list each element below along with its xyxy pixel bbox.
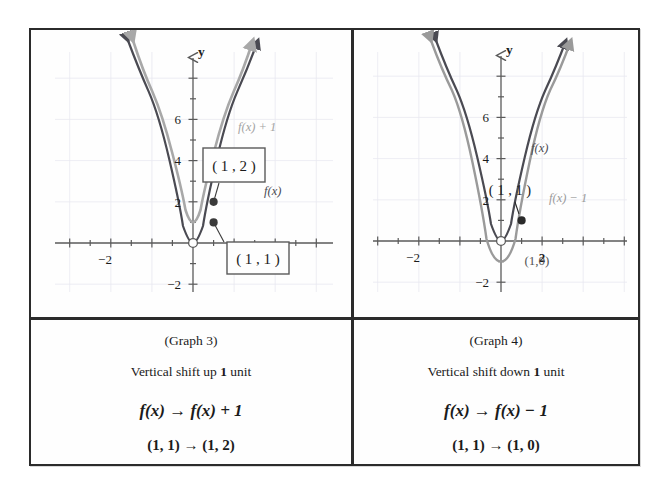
- graph3-point-from: (1, 1): [147, 437, 180, 453]
- graph3-y-axis-label: y: [198, 44, 205, 59]
- graph3-point-arrow: →: [184, 437, 199, 453]
- graph3-description-prefix: Vertical shift up: [131, 364, 221, 379]
- graph3-svg: y −2 2 4 6 −2 f(x) + 1 f(x) ( 1 , 2 ) ( …: [31, 30, 351, 317]
- graph4-plot-cell: y −2 2 2 4 6 −2 f(x) f(x) − 1 ( 1 , 1 ) …: [353, 30, 639, 317]
- graph3-description-suffix: unit: [227, 364, 251, 379]
- graph3-plot-cell: y −2 2 4 6 −2 f(x) + 1 f(x) ( 1 , 2 ) ( …: [31, 30, 351, 317]
- graph4-mapping: f(x) → f(x) − 1: [353, 401, 639, 421]
- graph4-ytick-label-4: 4: [483, 151, 490, 166]
- graph3-series-label-fx: f(x): [264, 184, 281, 198]
- graph4-mapping-to: f(x) − 1: [495, 401, 548, 420]
- graph4-point-arrow: →: [489, 437, 504, 453]
- graph4-point-mapping: (1, 1) → (1, 0): [353, 437, 639, 454]
- graph4-xtick-label--2: −2: [406, 250, 420, 265]
- graph3-mapping-arrow: →: [169, 401, 186, 420]
- graph4-caption-cell: (Graph 4) Vertical shift down 1 unit f(x…: [353, 319, 639, 468]
- graph4-ytick-label-6: 6: [483, 110, 490, 125]
- graph3-plot-background: [49, 40, 339, 302]
- graph3-point-1-1-label: ( 1 , 1 ): [236, 251, 280, 268]
- graph4-mapping-from: f(x): [444, 401, 469, 420]
- graph4-description-suffix: unit: [540, 364, 564, 379]
- graph3-point-1-2-label: ( 1 , 2 ): [212, 158, 256, 175]
- graph3-mapping-to: f(x) + 1: [190, 401, 242, 420]
- graph3-caption-title: (Graph 3): [31, 333, 351, 349]
- graph3-point-1-2-callout: ( 1 , 2 ): [203, 148, 265, 182]
- graph4-svg: y −2 2 2 4 6 −2 f(x) f(x) − 1 ( 1 , 1 ) …: [353, 30, 639, 317]
- graph4-ytick-label--2: −2: [475, 275, 489, 290]
- graph4-description-prefix: Vertical shift down: [427, 364, 533, 379]
- graph3-mapping: f(x) → f(x) + 1: [31, 401, 351, 421]
- graph3-point-mapping: (1, 1) → (1, 2): [31, 437, 351, 454]
- graph3-ytick-label-2: 2: [175, 195, 182, 210]
- graph4-point-1-1-label: ( 1 , 1 ): [489, 182, 531, 199]
- graph3-ytick-label--2: −2: [167, 277, 181, 292]
- graph4-description: Vertical shift down 1 unit: [353, 364, 639, 380]
- figure-table: y −2 2 4 6 −2 f(x) + 1 f(x) ( 1 , 2 ) ( …: [29, 28, 640, 466]
- graph3-series-label-fx-plus-1: f(x) + 1: [238, 120, 276, 134]
- graph4-series-label-fx-minus-1: f(x) − 1: [549, 191, 587, 205]
- graph3-caption-cell: (Graph 3) Vertical shift up 1 unit f(x) …: [31, 319, 351, 468]
- graph3-description: Vertical shift up 1 unit: [31, 364, 351, 380]
- graph3-origin-open-point: [189, 239, 198, 248]
- graph3-mapping-from: f(x): [139, 401, 164, 420]
- graph4-point-1-1-marker: [518, 216, 526, 224]
- graph3-ytick-label-6: 6: [175, 112, 182, 127]
- graph4-origin-open-point: [497, 237, 506, 246]
- graph4-mapping-arrow: →: [474, 401, 491, 420]
- graph4-point-to: (1, 0): [507, 437, 540, 453]
- graph3-description-amount: 1: [220, 364, 227, 379]
- graph4-y-axis-label: y: [506, 42, 513, 57]
- graph3-xtick-label--2: −2: [98, 252, 112, 267]
- graph3-point-to: (1, 2): [202, 437, 235, 453]
- graph4-point-1-0-label: (1,0): [525, 253, 550, 268]
- graph4-point-from: (1, 1): [452, 437, 485, 453]
- graph4-caption-title: (Graph 4): [353, 333, 639, 349]
- graph4-series-label-fx: f(x): [531, 141, 548, 155]
- graph3-ytick-label-4: 4: [175, 153, 182, 168]
- graph3-point-1-1-callout: ( 1 , 1 ): [227, 242, 289, 274]
